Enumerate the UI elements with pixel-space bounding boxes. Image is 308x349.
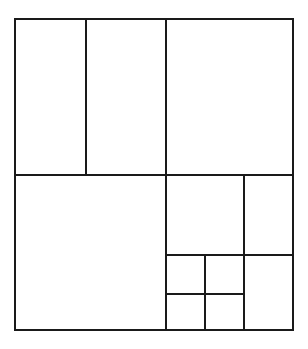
rectangle-subdivision-diagram bbox=[0, 0, 308, 349]
divider-lines bbox=[15, 19, 293, 330]
